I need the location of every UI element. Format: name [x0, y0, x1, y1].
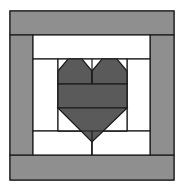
inner-strip-bottom-left — [33, 131, 92, 155]
inner-strip-right — [127, 59, 150, 131]
outer-border-top — [10, 11, 174, 35]
outer-border-left — [10, 35, 33, 155]
inner-strip-top — [33, 35, 150, 59]
inner-strip-bottom-right — [92, 131, 150, 155]
inner-strip-left — [33, 59, 58, 131]
heart-quilt-block — [0, 0, 183, 186]
outer-border-bottom — [10, 155, 174, 180]
heart-middle-row — [58, 84, 127, 108]
outer-border-right — [150, 35, 174, 155]
